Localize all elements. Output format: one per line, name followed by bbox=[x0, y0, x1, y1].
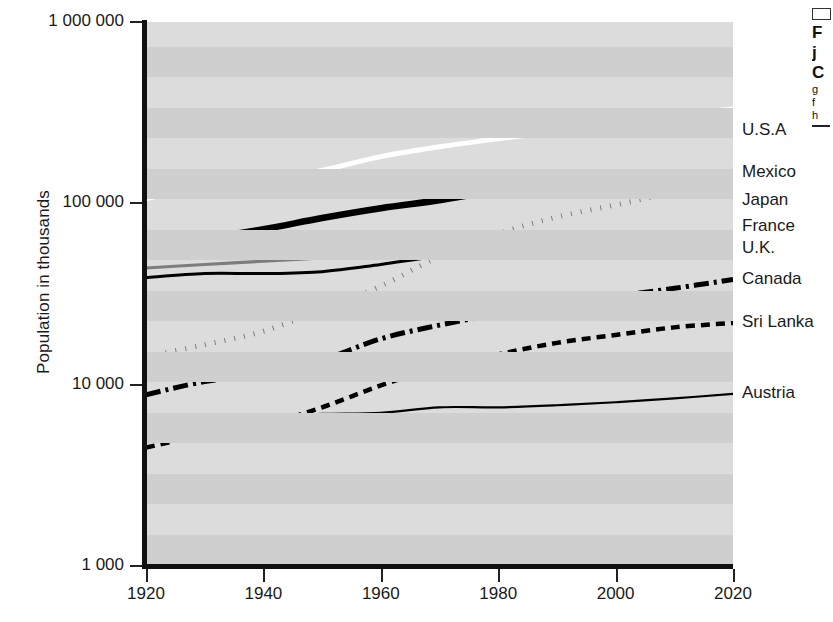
series-label-u-k: U.K. bbox=[742, 239, 775, 256]
background-band bbox=[146, 169, 733, 200]
series-label-canada: Canada bbox=[742, 270, 802, 287]
y-axis-line bbox=[142, 20, 147, 568]
x-tick-label: 2000 bbox=[597, 584, 635, 604]
x-tick-mark bbox=[616, 569, 618, 582]
x-tick-mark bbox=[498, 569, 500, 582]
x-tick-label: 1960 bbox=[362, 584, 400, 604]
background-bands bbox=[146, 22, 733, 566]
x-axis-line bbox=[142, 564, 733, 569]
x-tick-label: 2020 bbox=[714, 584, 752, 604]
caption-box-icon bbox=[812, 8, 831, 20]
series-label-u-s-a: U.S.A bbox=[742, 121, 786, 138]
x-tick-label: 1940 bbox=[244, 584, 282, 604]
series-label-france: France bbox=[742, 217, 795, 234]
caption-line-1: F bbox=[812, 23, 833, 43]
y-tick-mark bbox=[130, 384, 142, 386]
series-label-mexico: Mexico bbox=[742, 163, 796, 180]
side-caption-cropped: F j C g f h bbox=[812, 8, 833, 128]
series-label-sri-lanka: Sri Lanka bbox=[742, 313, 814, 330]
y-tick-label: 10 000 bbox=[0, 374, 124, 394]
caption-line-5: f bbox=[812, 96, 833, 109]
caption-line-6: h bbox=[812, 109, 833, 122]
x-tick-mark bbox=[146, 569, 148, 582]
background-band bbox=[146, 291, 733, 322]
x-tick-mark bbox=[263, 569, 265, 582]
y-tick-label: 100 000 bbox=[0, 192, 124, 212]
background-band bbox=[146, 474, 733, 505]
y-tick-mark bbox=[130, 21, 142, 23]
series-label-japan: Japan bbox=[742, 191, 788, 208]
background-band bbox=[146, 47, 733, 78]
x-tick-mark bbox=[381, 569, 383, 582]
plot-area bbox=[146, 22, 733, 566]
x-tick-mark bbox=[733, 569, 735, 582]
caption-rule bbox=[812, 125, 830, 127]
population-growth-chart: Population in thousands 1 000 000100 000… bbox=[0, 0, 833, 622]
background-band bbox=[146, 230, 733, 261]
background-band bbox=[146, 535, 733, 566]
background-band bbox=[146, 413, 733, 444]
y-tick-mark bbox=[130, 565, 142, 567]
caption-line-2: j bbox=[812, 43, 833, 63]
series-label-austria: Austria bbox=[742, 384, 795, 401]
x-tick-label: 1920 bbox=[127, 584, 165, 604]
y-tick-label: 1 000 bbox=[0, 555, 124, 575]
y-tick-mark bbox=[130, 202, 142, 204]
caption-line-4: g bbox=[812, 83, 833, 96]
background-band bbox=[146, 352, 733, 383]
x-tick-label: 1980 bbox=[479, 584, 517, 604]
background-band bbox=[146, 108, 733, 139]
y-tick-label: 1 000 000 bbox=[0, 11, 124, 31]
caption-line-3: C bbox=[812, 63, 833, 83]
